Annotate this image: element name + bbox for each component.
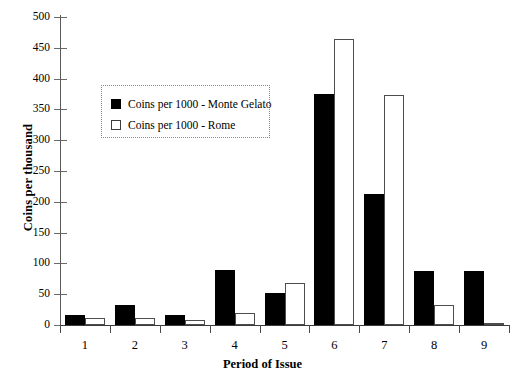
bar-7-monte-gelato bbox=[364, 194, 384, 325]
y-axis-tick-labels: 050100150200250300350400450500 bbox=[8, 0, 50, 382]
x-tick-mark bbox=[260, 325, 261, 333]
y-tick-label: 100 bbox=[10, 257, 50, 269]
x-tick-label-8: 8 bbox=[414, 338, 454, 353]
y-tick-label: 200 bbox=[10, 196, 50, 208]
y-tick-label: 350 bbox=[10, 103, 50, 115]
bar-1-monte-gelato bbox=[65, 315, 85, 325]
bar-9-rome bbox=[484, 323, 504, 325]
x-tick-label-6: 6 bbox=[314, 338, 354, 353]
bar-8-monte-gelato bbox=[414, 271, 434, 325]
x-tick-mark bbox=[459, 325, 460, 333]
x-axis-line bbox=[60, 325, 509, 326]
bar-5-rome bbox=[285, 283, 305, 326]
legend-item-2: Coins per 1000 - Rome bbox=[111, 114, 269, 135]
y-tick-label: 450 bbox=[10, 42, 50, 54]
bar-3-rome bbox=[185, 320, 205, 325]
x-tick-mark-origin bbox=[60, 325, 61, 333]
bar-9-monte-gelato bbox=[464, 271, 484, 325]
x-tick-mark bbox=[359, 325, 360, 333]
chart-legend: Coins per 1000 - Monte GelatoCoins per 1… bbox=[101, 85, 270, 138]
bar-5-monte-gelato bbox=[265, 293, 285, 325]
bar-2-monte-gelato bbox=[115, 305, 135, 325]
x-tick-mark bbox=[160, 325, 161, 333]
legend-item-label: Coins per 1000 - Rome bbox=[128, 119, 235, 131]
bar-3-monte-gelato bbox=[165, 315, 185, 325]
legend-swatch-icon bbox=[111, 99, 121, 109]
x-tick-mark bbox=[409, 325, 410, 333]
bars-layer bbox=[60, 17, 509, 325]
y-tick-label: 500 bbox=[10, 11, 50, 23]
x-tick-mark bbox=[509, 325, 510, 333]
y-tick-label: 0 bbox=[10, 319, 50, 331]
x-tick-label-7: 7 bbox=[364, 338, 404, 353]
bar-6-rome bbox=[334, 39, 354, 325]
x-tick-label-9: 9 bbox=[464, 338, 504, 353]
legend-swatch-icon bbox=[111, 120, 121, 130]
bar-7-rome bbox=[384, 95, 404, 325]
bar-8-rome bbox=[434, 305, 454, 325]
x-tick-mark bbox=[309, 325, 310, 333]
bar-1-rome bbox=[85, 318, 105, 325]
bar-6-monte-gelato bbox=[314, 94, 334, 325]
legend-item-label: Coins per 1000 - Monte Gelato bbox=[128, 98, 271, 110]
y-tick-label: 50 bbox=[10, 288, 50, 300]
x-tick-label-4: 4 bbox=[215, 338, 255, 353]
legend-item-1: Coins per 1000 - Monte Gelato bbox=[111, 93, 269, 114]
x-tick-mark bbox=[110, 325, 111, 333]
x-tick-label-3: 3 bbox=[165, 338, 205, 353]
y-tick-label: 150 bbox=[10, 227, 50, 239]
y-tick-label: 250 bbox=[10, 165, 50, 177]
x-tick-label-1: 1 bbox=[65, 338, 105, 353]
x-axis-label: Period of Issue bbox=[0, 357, 525, 372]
bar-4-monte-gelato bbox=[215, 270, 235, 325]
x-tick-label-5: 5 bbox=[265, 338, 305, 353]
y-tick-label: 300 bbox=[10, 134, 50, 146]
bar-2-rome bbox=[135, 318, 155, 325]
y-tick-label: 400 bbox=[10, 73, 50, 85]
x-tick-label-2: 2 bbox=[115, 338, 155, 353]
x-tick-mark bbox=[210, 325, 211, 333]
bar-chart: Coins per thousand 050100150200250300350… bbox=[0, 0, 525, 382]
bar-4-rome bbox=[235, 313, 255, 325]
